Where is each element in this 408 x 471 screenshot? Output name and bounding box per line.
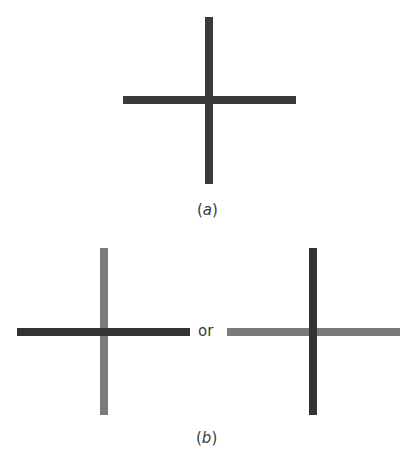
right-cross-vertical-bar — [309, 248, 317, 415]
left-cross-horizontal-bar — [17, 328, 190, 336]
panel-a-label: (a) — [197, 203, 218, 218]
or-connector-text: or — [198, 324, 213, 339]
panel-b-label-letter: b — [202, 429, 212, 447]
panel-a-label-letter: a — [203, 201, 212, 219]
panel-b-label: (b) — [196, 431, 217, 446]
panel-a-horizontal-bar — [123, 96, 296, 104]
